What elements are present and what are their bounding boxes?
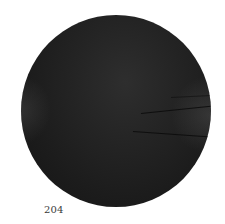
disk-left-sheen bbox=[21, 75, 51, 145]
circular-disk-figure bbox=[21, 15, 211, 207]
page-number: 204 bbox=[44, 204, 64, 216]
document-page: 204 bbox=[0, 0, 225, 224]
disk-right-sheen bbox=[171, 75, 211, 155]
